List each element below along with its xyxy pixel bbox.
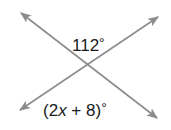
line-ascending <box>20 17 158 110</box>
degree-symbol: ° <box>101 100 107 116</box>
expression-rest: + 8) <box>67 101 102 120</box>
angle-value-top: 112 <box>72 36 99 55</box>
vertical-angles-diagram: 112° (2x + 8)° <box>0 0 171 130</box>
angle-label-top: 112° <box>72 35 105 55</box>
variable-x: x <box>57 101 67 120</box>
expression-open: (2 <box>43 101 58 120</box>
angle-label-bottom: (2x + 8)° <box>43 100 107 120</box>
degree-symbol: ° <box>99 35 105 51</box>
